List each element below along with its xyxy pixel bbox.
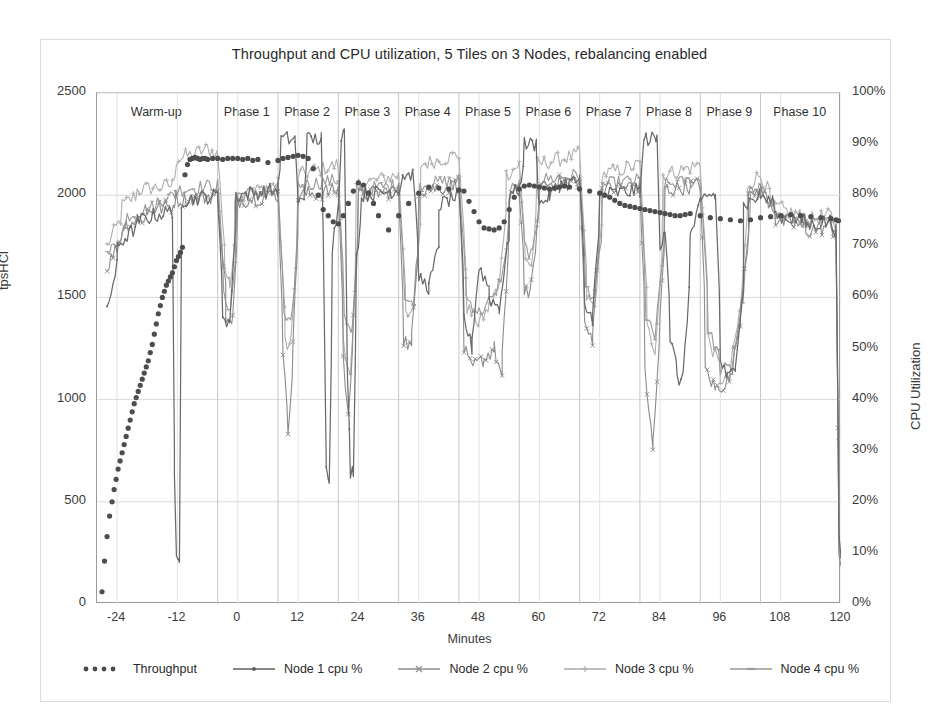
legend-label: Node 3 cpu % bbox=[615, 662, 694, 676]
y-tick-left: 1500 bbox=[26, 287, 86, 302]
y-tick-right: 40% bbox=[852, 390, 912, 405]
y-axis-label-left: tpsHCl bbox=[0, 251, 11, 290]
legend-item-node-2-cpu[interactable]: Node 2 cpu % bbox=[396, 662, 528, 676]
y-tick-right: 0% bbox=[852, 594, 912, 609]
y-tick-right: 90% bbox=[852, 134, 912, 149]
legend-marker-3-icon bbox=[396, 663, 442, 675]
y-tick-left: 0 bbox=[26, 594, 86, 609]
legend-marker-4-icon bbox=[562, 663, 608, 675]
legend-item-node-3-cpu[interactable]: Node 3 cpu % bbox=[562, 662, 694, 676]
chart-legend: ThroughputNode 1 cpu %Node 2 cpu %Node 3… bbox=[0, 662, 939, 676]
x-tick: 72 bbox=[569, 610, 629, 624]
x-tick: 0 bbox=[207, 610, 267, 624]
x-tick: -24 bbox=[86, 610, 146, 624]
y-tick-left: 2000 bbox=[26, 185, 86, 200]
legend-label: Throughput bbox=[133, 662, 197, 676]
plot-area bbox=[96, 92, 840, 603]
legend-label: Node 1 cpu % bbox=[284, 662, 363, 676]
y-tick-right: 50% bbox=[852, 339, 912, 354]
y-tick-left: 2500 bbox=[26, 83, 86, 98]
legend-marker-2-icon bbox=[231, 663, 277, 675]
legend-label: Node 4 cpu % bbox=[781, 662, 860, 676]
legend-item-throughput[interactable]: Throughput bbox=[80, 662, 197, 676]
legend-item-node-4-cpu[interactable]: Node 4 cpu % bbox=[728, 662, 860, 676]
y-tick-left: 1000 bbox=[26, 390, 86, 405]
y-axis-label-right: CPU Utilization bbox=[908, 343, 923, 430]
y-tick-right: 20% bbox=[852, 492, 912, 507]
x-tick: 24 bbox=[327, 610, 387, 624]
y-tick-left: 500 bbox=[26, 492, 86, 507]
legend-marker-1-icon bbox=[80, 663, 126, 675]
y-tick-right: 70% bbox=[852, 236, 912, 251]
legend-marker-5-icon bbox=[728, 663, 774, 675]
x-tick: 36 bbox=[388, 610, 448, 624]
chart-title: Throughput and CPU utilization, 5 Tiles … bbox=[0, 46, 939, 62]
y-tick-right: 80% bbox=[852, 185, 912, 200]
y-tick-right: 10% bbox=[852, 543, 912, 558]
y-tick-right: 60% bbox=[852, 287, 912, 302]
x-tick: 12 bbox=[267, 610, 327, 624]
plot-svg bbox=[97, 93, 841, 604]
y-tick-right: 100% bbox=[852, 83, 912, 98]
legend-label: Node 2 cpu % bbox=[449, 662, 528, 676]
x-tick: 48 bbox=[448, 610, 508, 624]
x-tick: 120 bbox=[810, 610, 870, 624]
x-tick: -12 bbox=[146, 610, 206, 624]
x-tick: 96 bbox=[689, 610, 749, 624]
x-tick: 60 bbox=[508, 610, 568, 624]
x-tick: 108 bbox=[750, 610, 810, 624]
y-tick-right: 30% bbox=[852, 441, 912, 456]
x-tick: 84 bbox=[629, 610, 689, 624]
legend-item-node-1-cpu[interactable]: Node 1 cpu % bbox=[231, 662, 363, 676]
x-axis-label: Minutes bbox=[0, 632, 939, 646]
chart-figure: Throughput and CPU utilization, 5 Tiles … bbox=[0, 0, 939, 724]
